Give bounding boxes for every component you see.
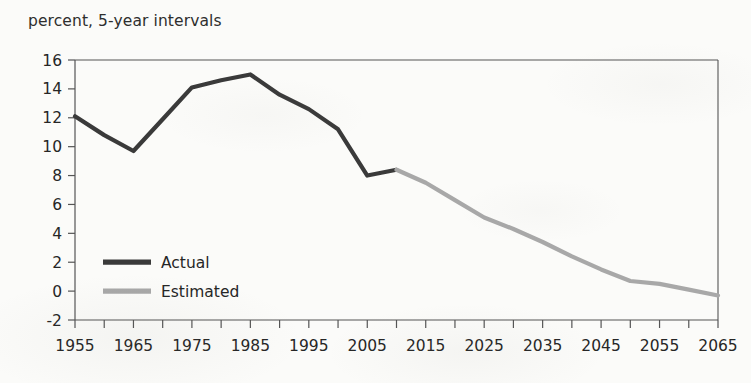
y-axis-tick-label: 8 [52,167,62,185]
chart-legend: ActualEstimated [103,254,239,301]
line-chart: 1614121086420-2 195519651975198519952005… [0,0,751,383]
y-axis-tick-label: 0 [52,283,62,301]
x-axis-tick-label: 2015 [406,337,445,355]
series-line-estimated [397,170,719,296]
y-axis: 1614121086420-2 [42,52,75,330]
y-axis-tick-label: 16 [42,52,62,70]
plot-frame [75,60,718,320]
x-axis-tick-label: 2055 [640,337,679,355]
legend-label-estimated: Estimated [161,283,239,301]
x-axis-tick-label: 1955 [55,337,94,355]
y-axis-tick-label: 4 [52,225,62,243]
x-axis-tick-label: 2045 [581,337,620,355]
y-axis-tick-label: 2 [52,254,62,272]
x-axis-tick-label: 2065 [698,337,737,355]
x-axis-tick-label: 2035 [523,337,562,355]
y-axis-tick-label: 12 [42,109,62,127]
series-line-actual [75,74,397,175]
y-axis-tick-label: 14 [42,80,62,98]
x-axis-tick-label: 2005 [348,337,387,355]
x-axis-tick-label: 1965 [114,337,153,355]
legend-label-actual: Actual [161,254,210,272]
x-axis-tick-label: 1985 [231,337,270,355]
y-axis-tick-label: 10 [42,138,62,156]
y-axis-tick-label: 6 [52,196,62,214]
x-axis: 1955196519751985199520052015202520352045… [55,320,737,355]
y-axis-tick-label: -2 [47,312,62,330]
x-axis-tick-label: 1995 [289,337,328,355]
x-axis-tick-label: 2025 [464,337,503,355]
x-axis-tick-label: 1975 [172,337,211,355]
